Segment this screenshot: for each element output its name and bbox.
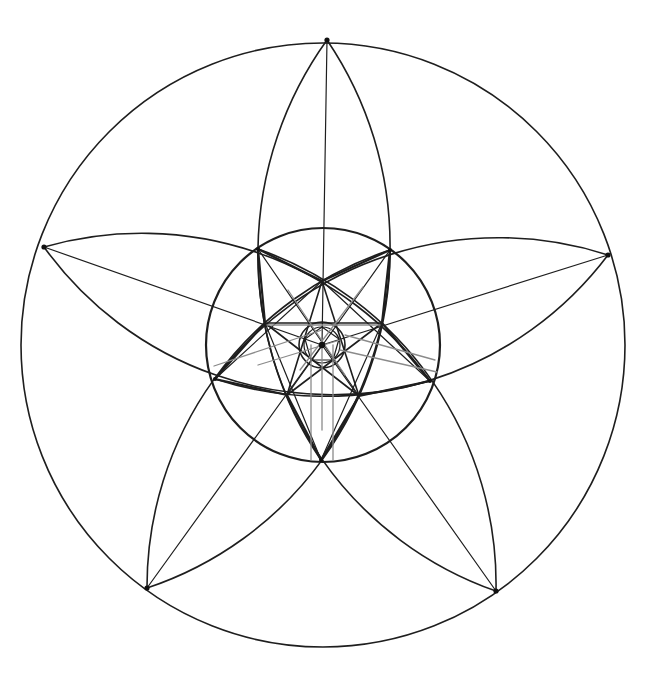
radial-lines [44,40,608,591]
middle-vertex [388,248,392,252]
middle-vertex [213,377,217,381]
outer-point-bottom-right [493,588,498,593]
petal-left-a-arc [44,247,430,395]
outer-point-right [605,252,610,257]
construction-line [345,335,435,360]
middle-vertex [256,247,260,251]
construction-line [340,350,437,372]
outer-point-top [324,37,329,42]
outer-point-bottom-left [144,585,149,590]
outer-point-left [41,244,46,249]
center-point [319,342,325,348]
radial-line-right [322,255,608,345]
radial-line-bottom-right [322,345,496,591]
radial-line-top [322,40,327,345]
middle-vertex [428,379,432,383]
middle-vertex [319,458,323,462]
star-rosette-diagram [0,0,649,689]
